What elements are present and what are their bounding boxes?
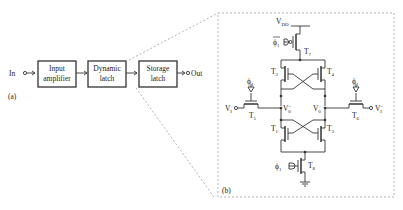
- t8-label: T8: [308, 161, 316, 171]
- panel-b-label: (b): [222, 186, 231, 195]
- block-2-line2: latch: [100, 74, 115, 83]
- panel-a-label: (a): [8, 92, 17, 101]
- input-label: In: [9, 69, 15, 78]
- t3-label: T3: [327, 124, 335, 134]
- block-1-line2: amplifier: [43, 74, 71, 83]
- phi-bar-label: ϕ1: [273, 38, 280, 48]
- input-terminal-icon: [23, 71, 26, 74]
- t7-label: T7: [304, 47, 312, 57]
- circuit-figure: In Input amplifier Dynamic latch Storage…: [0, 0, 403, 210]
- t4-label: T4: [327, 67, 335, 77]
- vdd-label: VDD: [276, 17, 289, 27]
- block-2-line1: Dynamic: [93, 64, 121, 73]
- block-3-line1: Storage: [147, 64, 171, 73]
- vi-plus-label: V+I: [225, 104, 233, 114]
- t1-label: T1: [271, 124, 279, 134]
- vi-minus-label: V−I: [375, 104, 383, 114]
- block-3-line2: latch: [151, 74, 166, 83]
- vo-minus-label: V−0: [283, 104, 291, 114]
- output-terminal-icon: [186, 71, 189, 74]
- t2-label: T2: [271, 67, 279, 77]
- phi1-left-label: ϕ1: [247, 77, 254, 87]
- phi1-bottom-label: ϕ1: [275, 162, 282, 172]
- phi1-right-label: ϕ1: [352, 77, 359, 87]
- t6-label: T6: [352, 111, 360, 121]
- block-1-line1: Input: [49, 64, 66, 73]
- t5-label: T5: [249, 111, 257, 121]
- vo-plus-label: V+0: [313, 104, 321, 114]
- output-label: Out: [191, 69, 203, 78]
